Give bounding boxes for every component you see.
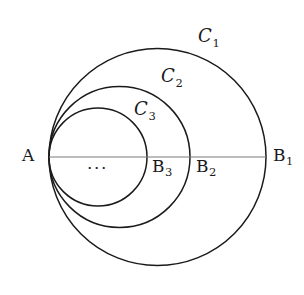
label-point-b2-base: B xyxy=(196,156,209,176)
label-point-b2-subscript: 2 xyxy=(209,165,216,179)
label-point-b3-base: B xyxy=(152,156,165,176)
label-circle-c3-base: C xyxy=(134,98,148,119)
diagram-background xyxy=(0,0,304,295)
circles-diagram xyxy=(0,0,304,295)
label-point-b1-subscript: 1 xyxy=(286,154,293,168)
label-circle-c1-base: C xyxy=(198,25,212,46)
label-point-b3-subscript: 3 xyxy=(165,165,172,179)
label-point-b1-base: B xyxy=(273,145,286,165)
label-point-b3: B3 xyxy=(152,158,172,175)
label-circle-c2-subscript: 2 xyxy=(175,76,183,90)
label-ellipsis: ··· xyxy=(87,160,108,177)
label-circle-c3-subscript: 3 xyxy=(148,109,156,123)
label-point-b1: B1 xyxy=(273,147,293,164)
figure-root: A C1 C2 C3 B1 B2 B3 ··· xyxy=(0,0,304,295)
label-point-b2: B2 xyxy=(196,158,216,175)
label-circle-c1-subscript: 1 xyxy=(212,36,220,50)
label-circle-c3: C3 xyxy=(134,100,156,118)
label-point-a: A xyxy=(22,147,34,164)
label-circle-c2-base: C xyxy=(161,65,175,86)
label-circle-c2: C2 xyxy=(161,67,183,85)
label-circle-c1: C1 xyxy=(198,27,220,45)
